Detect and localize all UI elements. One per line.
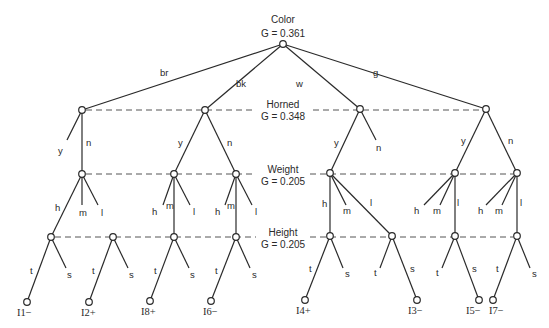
edge-label: h <box>414 205 419 216</box>
tree-node-root <box>280 41 287 48</box>
tree-edge <box>502 173 517 205</box>
tree-node-w-y-l <box>389 233 396 240</box>
edge-label: s <box>129 269 134 280</box>
edge-label: l <box>193 206 195 217</box>
tree-edge <box>330 236 343 268</box>
edge-label: h <box>55 202 60 213</box>
edge-label: s <box>67 269 72 280</box>
leaf-label: I8+ <box>141 306 156 317</box>
edge-label: m <box>227 200 235 211</box>
edge-label: t <box>436 267 439 278</box>
tree-edge <box>424 173 455 205</box>
edge-label: t <box>154 265 157 276</box>
edge-label: t <box>374 267 377 278</box>
tree-edge <box>174 237 189 268</box>
edge-label: h <box>215 206 220 217</box>
tree-edge <box>330 173 392 236</box>
root-attribute-name: Color <box>271 14 296 25</box>
tree-edge <box>455 109 486 173</box>
edge-label: h <box>152 206 157 217</box>
tree-node-w-y <box>327 170 334 177</box>
tree-node-i2 <box>86 299 93 306</box>
tree-edge <box>442 236 455 268</box>
tree-node-i7 <box>490 297 497 304</box>
tree-node-i4 <box>302 297 309 304</box>
tree-node-br-n <box>79 171 86 178</box>
tree-node-bk <box>202 107 209 114</box>
edge-label: n <box>376 142 381 153</box>
edge-label: m <box>343 205 351 216</box>
edge-label: bk <box>236 78 246 89</box>
tree-edge <box>486 173 517 205</box>
tree-node-bk-y-m <box>171 234 178 241</box>
edge-label: n <box>227 137 232 148</box>
edge-label: g <box>373 67 378 78</box>
tree-edge <box>67 110 82 140</box>
height-attribute-name: Height <box>269 227 298 238</box>
edge-label: m <box>79 207 87 218</box>
tree-node-w <box>357 106 364 113</box>
tree-edge <box>330 173 346 205</box>
edge-label: n <box>86 137 91 148</box>
edge-label: y <box>178 137 183 148</box>
tree-node-w-y-h <box>327 233 334 240</box>
tree-edge <box>440 173 455 205</box>
edge-label: m <box>166 200 174 211</box>
tree-node-g-n <box>514 170 521 177</box>
tree-node-i8 <box>147 298 154 305</box>
height-level-label: Height G = 0.205 <box>261 227 306 250</box>
edge-label: t <box>309 263 312 274</box>
edge-label: y <box>334 137 339 148</box>
tree-node-i1 <box>24 299 31 306</box>
tree-node-bk-n-m <box>233 234 240 241</box>
tree-node-br-n-h <box>48 234 55 241</box>
edge-label: br <box>160 67 168 78</box>
tree-node-g-n-l <box>514 233 521 240</box>
tree-node-br <box>79 107 86 114</box>
edge-label: w <box>295 78 303 89</box>
tree-edge <box>174 174 190 205</box>
edge-label: h <box>478 205 483 216</box>
tree-edge <box>236 237 250 268</box>
tree-node-i3 <box>414 297 421 304</box>
edge-label: s <box>472 263 477 274</box>
tree-node-i6 <box>208 298 215 305</box>
leaf-label: I7− <box>489 305 504 316</box>
edge-label: t <box>92 265 95 276</box>
tree-edge <box>517 236 530 268</box>
height-gain-value: G = 0.205 <box>261 239 306 250</box>
tree-edge <box>113 237 128 268</box>
leaf-label: I1− <box>17 307 32 318</box>
horned-attribute-name: Horned <box>267 99 300 110</box>
leaf-label: I4+ <box>296 305 311 316</box>
tree-edge <box>82 44 283 110</box>
tree-edge <box>360 109 376 140</box>
tree-edge <box>51 237 66 268</box>
tree-node-bk-n <box>233 171 240 178</box>
horned-level-label: Horned G = 0.348 <box>261 99 306 122</box>
tree-node-bk-y <box>171 171 178 178</box>
edge-label: y <box>461 135 466 146</box>
weight-level-label: Weight G = 0.205 <box>261 164 306 187</box>
edge-label: l <box>457 197 459 208</box>
weight-gain-value: G = 0.205 <box>261 176 306 187</box>
edge-label: m <box>433 205 441 216</box>
leaf-label: I5− <box>466 305 481 316</box>
tree-node-i5 <box>476 297 483 304</box>
leaf-label: I6− <box>203 306 218 317</box>
edge-label: s <box>345 268 350 279</box>
edge-label: s <box>252 269 257 280</box>
edge-label: y <box>58 145 63 156</box>
tree-node-g-y-l <box>452 233 459 240</box>
tree-edge <box>380 236 392 268</box>
edge-label: t <box>215 265 218 276</box>
edge-label: h <box>322 198 327 209</box>
edge-label: l <box>370 197 372 208</box>
weight-attribute-name: Weight <box>268 164 299 175</box>
tree-node-br-extra <box>110 234 117 241</box>
root-gain-value: G = 0.361 <box>261 28 306 39</box>
edge-label: l <box>255 206 257 217</box>
tree-edge <box>236 174 252 205</box>
tree-node-g <box>483 106 490 113</box>
edge-label: t <box>30 265 33 276</box>
